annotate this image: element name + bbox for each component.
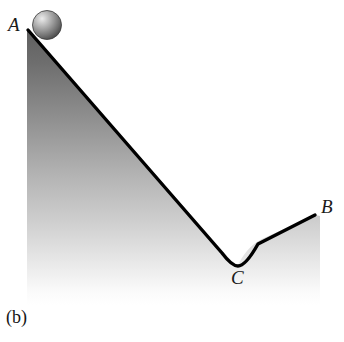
- rolling-ball: [33, 11, 62, 40]
- panel-caption: (b): [6, 308, 27, 326]
- point-label-c: C: [231, 268, 244, 287]
- point-label-b: B: [321, 197, 333, 216]
- physics-figure-panel-b: A B C (b): [0, 0, 344, 342]
- ramp-diagram-svg: [0, 0, 344, 342]
- point-label-a: A: [8, 15, 20, 34]
- terrain-fill: [27, 30, 320, 305]
